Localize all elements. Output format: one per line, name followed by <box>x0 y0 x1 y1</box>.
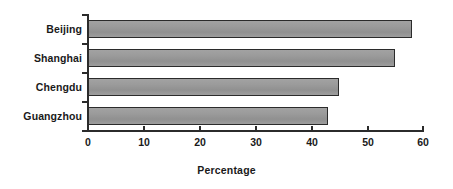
x-axis-tick <box>199 126 201 132</box>
bar-guangzhou <box>88 107 328 125</box>
x-axis-tick-label: 0 <box>68 136 108 148</box>
x-axis-tick-label: 60 <box>403 136 443 148</box>
x-axis-tick <box>422 126 424 132</box>
x-axis-title: Percentage <box>0 164 453 176</box>
x-axis-tick-label: 10 <box>124 136 164 148</box>
x-axis-tick-label: 50 <box>348 136 388 148</box>
bar-beijing <box>88 20 412 38</box>
category-label-text: Shanghai <box>34 52 82 64</box>
category-label-text: Guangzhou <box>23 110 82 122</box>
x-axis-tick <box>87 126 89 132</box>
category-label-text: Beijing <box>46 23 82 35</box>
bar-shanghai <box>88 49 395 67</box>
bar-chart: Beijing Shanghai Chengdu Guangzhou 0 10 … <box>0 0 453 189</box>
bar-row <box>88 49 423 67</box>
x-axis-tick <box>367 126 369 132</box>
bar-chengdu <box>88 78 339 96</box>
x-axis-tick <box>311 126 313 132</box>
bar-row <box>88 20 423 38</box>
x-axis-tick-label: 20 <box>180 136 220 148</box>
y-axis-tick <box>82 101 88 103</box>
y-axis-tick <box>82 43 88 45</box>
y-axis-tick <box>82 14 88 16</box>
x-axis-tick-label: 30 <box>236 136 276 148</box>
category-label-text: Chengdu <box>36 81 82 93</box>
bar-row <box>88 107 423 125</box>
x-axis-tick <box>143 126 145 132</box>
bar-row <box>88 78 423 96</box>
x-axis-tick-label: 40 <box>292 136 332 148</box>
y-axis-tick <box>82 72 88 74</box>
x-axis-tick <box>255 126 257 132</box>
